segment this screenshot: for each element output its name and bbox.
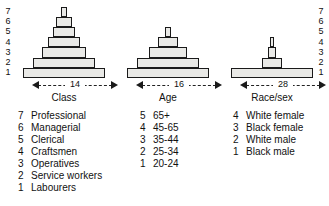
legend-item: 3Black female xyxy=(233,122,328,134)
pyramid-level-5 xyxy=(53,27,76,37)
legend-item-key: 3 xyxy=(233,122,246,134)
legend-item-label: Service workers xyxy=(31,170,133,182)
pyramid-levels xyxy=(222,37,322,78)
legend-item-key: 3 xyxy=(140,134,153,146)
legend-item-key: 4 xyxy=(233,110,246,122)
legend-item-label: White female xyxy=(246,110,328,122)
arrow-left-icon xyxy=(136,81,143,89)
pyramid-level-5 xyxy=(165,27,171,37)
legend-item: 7Professional xyxy=(18,110,133,122)
legend-item-key: 4 xyxy=(18,146,31,158)
y-axis-left-tick-3: 3 xyxy=(2,48,14,57)
legend-item: 4White female xyxy=(233,110,328,122)
category-label-class: Class xyxy=(14,92,114,104)
y-axis-left-tick-6: 6 xyxy=(2,17,14,26)
category-label-race-sex: Race/sex xyxy=(222,92,322,104)
arrow-left-icon xyxy=(240,81,247,89)
legend-item-label: Operatives xyxy=(31,158,133,170)
legend-item-label: Clerical xyxy=(31,134,133,146)
legend-item: 2Service workers xyxy=(18,170,133,182)
y-axis-left-tick-2: 2 xyxy=(2,58,14,67)
pyramid-level-3 xyxy=(42,47,87,57)
pyramid-level-1 xyxy=(231,68,313,78)
pyramid-age xyxy=(118,0,218,78)
legend-item-label: Labourers xyxy=(31,182,133,194)
legend-item-label: 25-34 xyxy=(153,146,230,158)
legend-item-key: 2 xyxy=(18,170,31,182)
legend-item: 2White male xyxy=(233,134,328,146)
legend-item: 1Labourers xyxy=(18,182,133,194)
pyramid-level-4 xyxy=(158,37,179,47)
pyramid-figure: 7654321 7654321 7Professional6Managerial… xyxy=(0,0,329,206)
legend-item: 335-44 xyxy=(140,134,230,146)
width-arrow-class: 14 xyxy=(32,80,118,92)
pyramid-level-7 xyxy=(61,7,67,17)
legend-item-key: 1 xyxy=(233,146,246,158)
legend-item-key: 5 xyxy=(18,134,31,146)
pyramid-race-sex xyxy=(222,0,322,78)
legend-class: 7Professional6Managerial5Clerical4Crafts… xyxy=(18,110,133,194)
legend-item-label: Black male xyxy=(246,146,328,158)
legend-item: 120-24 xyxy=(140,158,230,170)
legend-item-key: 4 xyxy=(140,122,153,134)
legend-item-label: 20-24 xyxy=(153,158,230,170)
pyramid-levels xyxy=(14,7,114,78)
legend-item-key: 2 xyxy=(140,146,153,158)
legend-item-key: 5 xyxy=(140,110,153,122)
y-axis-left-tick-5: 5 xyxy=(2,27,14,36)
pyramid-level-2 xyxy=(262,58,281,68)
pyramid-level-1 xyxy=(127,68,209,78)
legend-item-label: White male xyxy=(246,134,328,146)
legend-item-key: 1 xyxy=(140,158,153,170)
arrow-right-icon xyxy=(319,81,326,89)
legend-item: 6Managerial xyxy=(18,122,133,134)
width-arrow-race-sex: 28 xyxy=(240,80,326,92)
legend-item: 565+ xyxy=(140,110,230,122)
pyramid-level-2 xyxy=(137,58,199,68)
category-label-age: Age xyxy=(118,92,218,104)
width-arrow-age: 16 xyxy=(136,80,222,92)
pyramid-level-3 xyxy=(268,47,277,57)
legend-item: 1Black male xyxy=(233,146,328,158)
legend-item-label: 65+ xyxy=(153,110,230,122)
y-axis-left-tick-4: 4 xyxy=(2,38,14,47)
legend-race-sex: 4White female3Black female2White male1Bl… xyxy=(233,110,328,158)
pyramid-class xyxy=(14,0,114,78)
legend-age: 565+445-65335-44225-34120-24 xyxy=(140,110,230,170)
arrow-right-icon xyxy=(215,81,222,89)
y-axis-left-tick-1: 1 xyxy=(2,68,14,77)
legend-item-key: 2 xyxy=(233,134,246,146)
legend-item-key: 1 xyxy=(18,182,31,194)
arrow-left-icon xyxy=(32,81,39,89)
base-width-value: 16 xyxy=(169,79,189,90)
legend-item-key: 3 xyxy=(18,158,31,170)
pyramid-level-2 xyxy=(33,58,95,68)
legend-item: 4Craftsmen xyxy=(18,146,133,158)
legend-item-label: Professional xyxy=(31,110,133,122)
legend-item: 225-34 xyxy=(140,146,230,158)
legend-item-label: 35-44 xyxy=(153,134,230,146)
legend-item-label: Managerial xyxy=(31,122,133,134)
arrow-right-icon xyxy=(111,81,118,89)
legend-item-label: Craftsmen xyxy=(31,146,133,158)
base-width-value: 28 xyxy=(273,79,293,90)
legend-item: 5Clerical xyxy=(18,134,133,146)
pyramid-level-3 xyxy=(149,47,186,57)
legend-item-label: 45-65 xyxy=(153,122,230,134)
legend-item-key: 6 xyxy=(18,122,31,134)
base-width-value: 14 xyxy=(65,79,85,90)
legend-item-label: Black female xyxy=(246,122,328,134)
pyramid-level-1 xyxy=(23,68,105,78)
pyramid-level-4 xyxy=(270,37,274,47)
pyramid-level-4 xyxy=(48,37,80,47)
legend-item: 3Operatives xyxy=(18,158,133,170)
legend-item-key: 7 xyxy=(18,110,31,122)
pyramid-level-6 xyxy=(56,17,71,27)
pyramid-levels xyxy=(118,27,218,78)
legend-item: 445-65 xyxy=(140,122,230,134)
y-axis-left-tick-7: 7 xyxy=(2,7,14,16)
